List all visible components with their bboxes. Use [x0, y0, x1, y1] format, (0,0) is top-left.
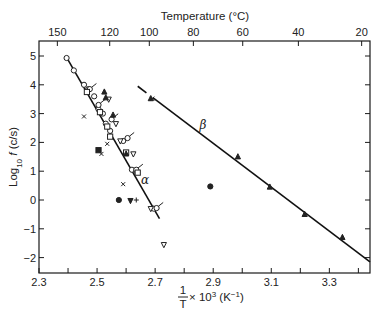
- top-axis-title: Temperature (°C): [161, 10, 249, 22]
- data-point-circle-open: [71, 68, 76, 73]
- data-point-circle-open-flag: [125, 132, 134, 140]
- data-point-circle-open: [92, 94, 97, 99]
- data-point-circle-open: [81, 82, 86, 87]
- data-point-triangle-filled: [102, 89, 107, 94]
- data-point-square-open: [84, 89, 89, 94]
- data-point-square-open: [108, 134, 113, 139]
- y-axis-title-unit: (c/s): [7, 127, 19, 153]
- data-point-circle-open: [64, 55, 69, 60]
- data-point-square-open: [105, 124, 110, 129]
- data-point-square-open: [135, 170, 140, 175]
- data-point-square-open: [97, 110, 102, 115]
- top-tick-label: 40: [292, 26, 304, 38]
- x-tick-label: 2.5: [89, 276, 104, 288]
- x-tick-label: 2.7: [147, 276, 162, 288]
- fit-line-beta: [138, 86, 147, 93]
- x-axis-title-numerator: 1: [180, 284, 186, 296]
- plot-frame: [39, 41, 370, 273]
- top-tick-label: 20: [356, 26, 368, 38]
- data-point-triangle-down-open: [161, 243, 166, 248]
- data-point-circle-filled: [116, 197, 121, 202]
- fit-lines: [67, 57, 370, 261]
- y-axis-tick-labels: 543210−1−2: [23, 50, 36, 264]
- y-tick-label: 4: [30, 79, 36, 91]
- x-tick-label: 2.3: [31, 276, 46, 288]
- data-point-triangle-filled: [235, 154, 240, 159]
- data-point-triangle-down-filled: [128, 198, 133, 203]
- y-tick-label: 3: [30, 108, 36, 120]
- x-axis-ticks: [39, 268, 358, 273]
- top-tick-label: 100: [140, 26, 158, 38]
- data-point-circle-open-flag: [154, 202, 163, 210]
- y-tick-label: −1: [23, 223, 36, 235]
- top-tick-label: 80: [187, 26, 199, 38]
- top-tick-label: 150: [48, 26, 66, 38]
- data-point-circle-open-flag: [96, 99, 105, 107]
- top-axis-tick-labels: 15012010080604020: [48, 26, 368, 38]
- x-axis-title-denominator: T: [179, 298, 186, 310]
- y-tick-label: 5: [30, 50, 36, 62]
- data-point-square-filled: [96, 148, 101, 153]
- annotation-label: α: [141, 173, 149, 187]
- chart: 2.32.52.72.93.13.3 543210−1−2 1501201008…: [0, 0, 386, 315]
- annotation-label: β: [199, 118, 207, 132]
- x-tick-label: 3.1: [264, 276, 279, 288]
- top-tick-label: 120: [101, 26, 119, 38]
- fit-line-beta: [153, 98, 370, 262]
- data-point-triangle-filled: [103, 95, 108, 100]
- data-point-x: [105, 142, 109, 146]
- data-points: [64, 55, 345, 247]
- data-point-triangle-filled: [110, 112, 115, 117]
- data-point-x: [121, 182, 125, 186]
- x-axis-title-rest: × 103 (K−1): [189, 290, 244, 304]
- top-axis-ticks: [57, 41, 361, 46]
- data-point-triangle-down-open: [113, 122, 118, 127]
- data-point-triangle-filled: [340, 234, 345, 239]
- top-tick-label: 60: [237, 26, 249, 38]
- x-tick-label: 3.3: [322, 276, 337, 288]
- y-tick-label: 1: [30, 165, 36, 177]
- y-tick-label: −2: [23, 252, 36, 264]
- x-tick-label: 2.9: [206, 276, 221, 288]
- data-point-triangle-down-open: [131, 152, 136, 157]
- annotations: αβ: [141, 118, 207, 187]
- y-axis-title: Log10 f (c/s): [7, 127, 24, 187]
- data-point-circle-filled: [208, 184, 213, 189]
- data-point-plus: [134, 198, 139, 203]
- y-tick-label: 2: [30, 136, 36, 148]
- y-tick-label: 0: [30, 194, 36, 206]
- data-point-x: [82, 114, 86, 118]
- y-axis-title-main: Log: [7, 168, 19, 187]
